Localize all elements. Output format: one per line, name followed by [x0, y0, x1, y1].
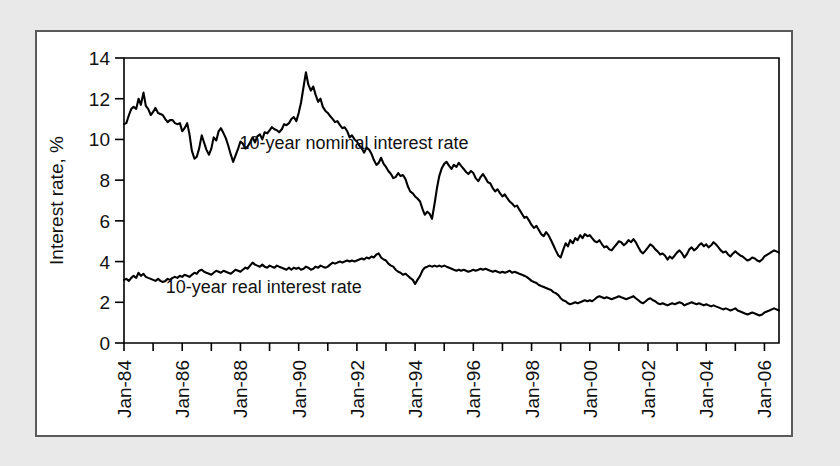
x-tick-label: Jan-98 [522, 360, 543, 418]
x-tick-label: Jan-96 [463, 360, 484, 418]
x-tick-label: Jan-90 [289, 360, 310, 418]
figure-frame: 02468101214Interest rate, %Jan-84Jan-86J… [35, 30, 793, 437]
y-tick-label: 2 [99, 292, 110, 313]
x-tick-label: Jan-88 [230, 360, 251, 418]
interest-rate-chart: 02468101214Interest rate, %Jan-84Jan-86J… [37, 32, 791, 435]
x-tick-label: Jan-84 [114, 360, 135, 419]
y-tick-label: 0 [99, 333, 110, 354]
y-tick-label: 4 [99, 252, 110, 273]
y-tick-label: 12 [89, 89, 110, 110]
plot-area-border [124, 58, 779, 343]
x-tick-label: Jan-06 [754, 360, 775, 418]
y-tick-label: 10 [89, 129, 110, 150]
x-tick-label: Jan-04 [696, 360, 717, 419]
y-axis-title: Interest rate, % [46, 136, 67, 265]
series-annotation-label: 10-year real interest rate [166, 277, 362, 297]
x-tick-label: Jan-02 [638, 360, 659, 418]
series-annotation-label: 10-year nominal interest rate [239, 133, 468, 153]
x-tick-label: Jan-00 [580, 360, 601, 418]
y-tick-label: 6 [99, 211, 110, 232]
x-tick-label: Jan-92 [347, 360, 368, 418]
y-tick-label: 14 [89, 48, 111, 69]
x-tick-label: Jan-86 [172, 360, 193, 418]
series-line [124, 72, 779, 261]
x-tick-label: Jan-94 [405, 360, 426, 419]
y-tick-label: 8 [99, 170, 110, 191]
